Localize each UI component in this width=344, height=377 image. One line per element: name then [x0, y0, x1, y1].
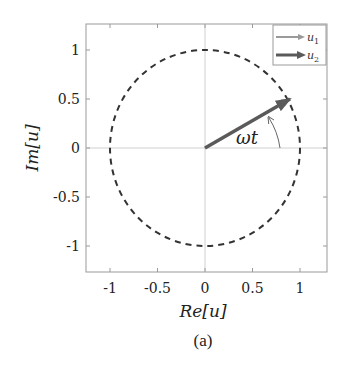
y-tick-label: -0.5 — [53, 189, 80, 205]
angle-label: ωt — [236, 127, 259, 148]
y-axis-label: Im[u] — [22, 124, 42, 172]
y-tick-label: 0 — [71, 140, 80, 156]
x-axis-label: Re[u] — [178, 301, 226, 321]
y-tick-label: 1 — [71, 42, 80, 58]
phasor-chart: -1 -0.5 0 0.5 1 1 0.5 0 -0.5 -1 Re[u] Im… — [0, 0, 344, 377]
x-tick-label: 0 — [201, 280, 210, 296]
x-tick-label: 1 — [296, 280, 305, 296]
legend: u1 u2 — [273, 25, 326, 65]
x-tick-label: 0.5 — [241, 280, 263, 296]
y-tick-label: -1 — [66, 238, 80, 254]
y-tick-label: 0.5 — [58, 91, 80, 107]
x-tick-label: -1 — [103, 280, 117, 296]
figure-caption: (a) — [194, 331, 213, 350]
x-tick-label: -0.5 — [144, 280, 171, 296]
